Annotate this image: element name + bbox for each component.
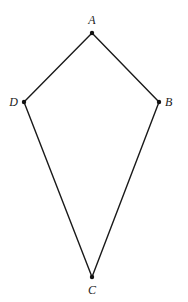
vertex-d-point xyxy=(22,100,26,104)
vertices xyxy=(22,31,161,279)
vertex-a-label: A xyxy=(87,13,96,27)
edge-da xyxy=(24,33,92,102)
vertex-a-point xyxy=(90,31,94,35)
edges xyxy=(24,33,159,277)
vertex-b-label: B xyxy=(165,95,173,109)
vertex-b-point xyxy=(157,100,161,104)
vertex-c-point xyxy=(90,275,94,279)
kite-diagram: A B C D xyxy=(0,0,188,302)
vertex-c-label: C xyxy=(88,283,97,297)
vertex-d-label: D xyxy=(8,95,18,109)
edge-bc xyxy=(92,102,159,277)
edge-ab xyxy=(92,33,159,102)
labels: A B C D xyxy=(8,13,173,297)
edge-cd xyxy=(24,102,92,277)
